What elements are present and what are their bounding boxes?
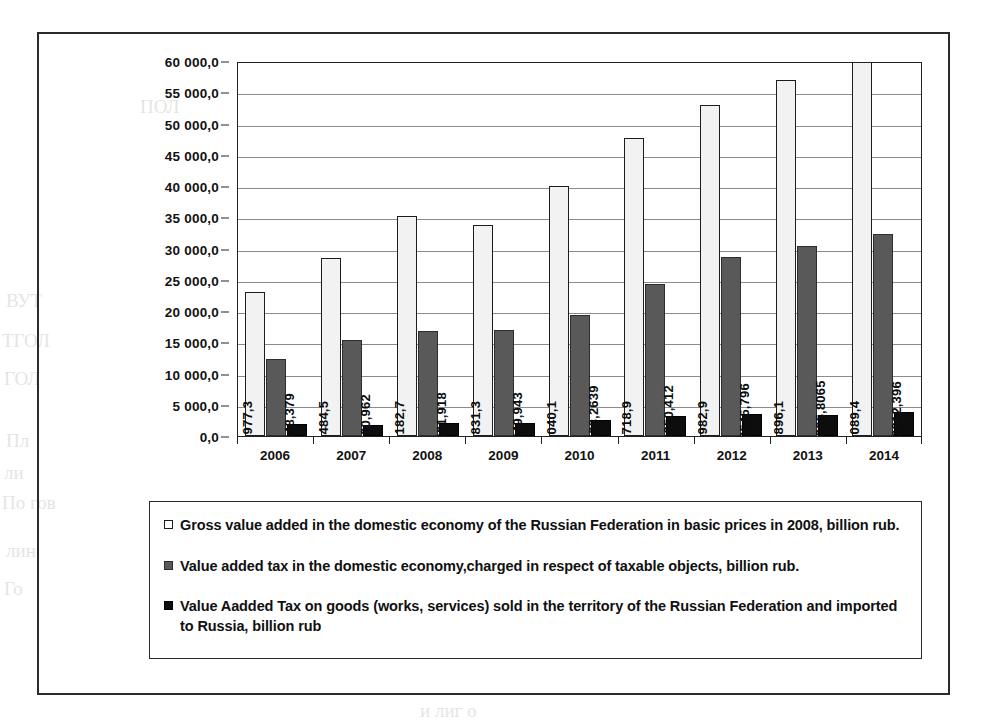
- y-tick-label: 40 000,0: [165, 180, 219, 195]
- legend-item-label: Value added tax in the domestic economy,…: [180, 557, 799, 577]
- figure-frame: 60 000,055 000,050 000,045 000,040 000,0…: [37, 32, 950, 695]
- y-tick-label: 5 000,0: [173, 398, 219, 413]
- y-tick-mark: [221, 312, 229, 313]
- x-tick-mark: [541, 437, 542, 444]
- bar-value-label: 2498,2639: [586, 386, 601, 437]
- bar-value-label: 40 040,1: [544, 401, 559, 437]
- x-tick-mark: [921, 437, 922, 444]
- bar-series-1[interactable]: 35 182,7: [397, 216, 417, 436]
- y-tick-label: 0,0: [200, 430, 219, 445]
- x-tick-cell: 2012: [694, 437, 770, 467]
- y-tick-mark: [221, 343, 229, 344]
- y-tick-label: 35 000,0: [165, 211, 219, 226]
- y-tick-mark: [221, 437, 229, 438]
- bar-series-1[interactable]: 61 089,4: [852, 62, 872, 436]
- bar-group: 61 089,43812,396: [845, 63, 921, 436]
- x-tick-cell: 2011: [618, 437, 694, 467]
- x-tick-mark: [465, 437, 466, 444]
- y-tick-label: 20 000,0: [165, 305, 219, 320]
- scan-bleed-artifact: ГОЛ: [4, 368, 40, 390]
- bar-series-1[interactable]: 56 896,1: [776, 80, 796, 436]
- legend-item[interactable]: Value added tax in the domestic economy,…: [164, 557, 905, 577]
- scan-bleed-artifact: Пл: [6, 430, 29, 452]
- bars-layer: 22 977,31848,37928 484,51760,96235 182,7…: [238, 63, 921, 436]
- x-tick-label: 2012: [694, 448, 770, 463]
- bar-group: 40 040,12498,2639: [542, 63, 618, 436]
- bar-group: 56 896,13365,8065: [769, 63, 845, 436]
- x-tick-label: 2007: [313, 448, 389, 463]
- bar-series-1[interactable]: 52 982,9: [700, 105, 720, 436]
- bar-series-3[interactable]: 3545,796: [742, 414, 762, 436]
- x-tick-label: 2008: [389, 448, 465, 463]
- bar-series-3[interactable]: 1760,962: [363, 425, 383, 436]
- y-tick-mark: [221, 187, 229, 188]
- bar-value-label: 47 718,9: [619, 401, 634, 437]
- bar-series-1[interactable]: 33 831,3: [473, 225, 493, 436]
- x-tick-label: 2013: [770, 448, 846, 463]
- x-tick-label: 2006: [237, 448, 313, 463]
- bar-value-label: 3545,796: [737, 383, 752, 437]
- x-tick-mark: [846, 437, 847, 444]
- y-axis: 60 000,055 000,050 000,045 000,040 000,0…: [143, 62, 229, 437]
- scan-bleed-artifact: и лиг о: [420, 700, 477, 722]
- bar-value-label: 2091,918: [434, 392, 449, 437]
- bar-series-1[interactable]: 28 484,5: [321, 258, 341, 436]
- y-tick-mark: [221, 62, 229, 63]
- gray-square-icon: [164, 561, 173, 570]
- x-tick-mark: [389, 437, 390, 444]
- legend: Gross value added in the domestic econom…: [149, 501, 922, 659]
- bar-series-3[interactable]: 2049,943: [515, 423, 535, 436]
- y-tick-label: 30 000,0: [165, 242, 219, 257]
- y-tick-label: 50 000,0: [165, 117, 219, 132]
- bar-group: 47 718,93250,412: [617, 63, 693, 436]
- legend-item[interactable]: Value Aadded Tax on goods (works, servic…: [164, 597, 905, 636]
- x-tick-mark: [770, 437, 771, 444]
- x-tick-mark: [313, 437, 314, 444]
- scan-bleed-artifact: лин: [6, 540, 36, 562]
- y-tick-label: 15 000,0: [165, 336, 219, 351]
- x-axis: 200620072008200920102011201220132014: [237, 437, 922, 467]
- scan-bleed-artifact: ли: [4, 462, 24, 484]
- bar-value-label: 61 089,4: [847, 401, 862, 437]
- bar-group: 22 977,31848,379: [238, 63, 314, 436]
- bar-series-3[interactable]: 3812,396: [894, 412, 914, 436]
- y-tick-label: 45 000,0: [165, 148, 219, 163]
- bar-series-3[interactable]: 2498,2639: [591, 420, 611, 436]
- bar-group: 52 982,93545,796: [693, 63, 769, 436]
- bar-series-1[interactable]: 47 718,9: [624, 138, 644, 436]
- x-tick-cell: 2006: [237, 437, 313, 467]
- bar-chart: 60 000,055 000,050 000,045 000,040 000,0…: [143, 62, 922, 467]
- bar-value-label: 3812,396: [889, 381, 904, 437]
- bar-value-label: 28 484,5: [316, 401, 331, 437]
- bar-value-label: 35 182,7: [392, 401, 407, 437]
- bar-value-label: 1760,962: [358, 394, 373, 437]
- x-tick-label: 2014: [846, 448, 922, 463]
- bar-value-label: 56 896,1: [771, 401, 786, 437]
- bar-series-3[interactable]: 3365,8065: [818, 415, 838, 436]
- x-tick-cell: 2008: [389, 437, 465, 467]
- x-tick-mark: [694, 437, 695, 444]
- bar-value-label: 52 982,9: [695, 401, 710, 437]
- bar-value-label: 22 977,3: [240, 401, 255, 437]
- bar-series-1[interactable]: 40 040,1: [549, 186, 569, 436]
- x-tick-cell: 2007: [313, 437, 389, 467]
- bar-group: 33 831,32049,943: [466, 63, 542, 436]
- y-tick-mark: [221, 124, 229, 125]
- black-square-icon: [164, 601, 173, 610]
- legend-item[interactable]: Gross value added in the domestic econom…: [164, 516, 905, 536]
- y-tick-mark: [221, 374, 229, 375]
- y-tick-label: 10 000,0: [165, 367, 219, 382]
- bar-series-3[interactable]: 1848,379: [287, 424, 307, 436]
- legend-item-label: Gross value added in the domestic econom…: [180, 516, 900, 536]
- bar-series-1[interactable]: 22 977,3: [245, 292, 265, 436]
- y-tick-mark: [221, 249, 229, 250]
- x-tick-label: 2011: [618, 448, 694, 463]
- x-tick-cell: 2014: [846, 437, 922, 467]
- hollow-square-icon: [164, 520, 173, 529]
- plot-area: 22 977,31848,37928 484,51760,96235 182,7…: [237, 62, 922, 437]
- x-tick-cell: 2010: [541, 437, 617, 467]
- bar-group: 28 484,51760,962: [314, 63, 390, 436]
- bar-series-3[interactable]: 2091,918: [439, 423, 459, 436]
- bar-series-3[interactable]: 3250,412: [666, 416, 686, 436]
- bar-value-label: 3250,412: [661, 385, 676, 437]
